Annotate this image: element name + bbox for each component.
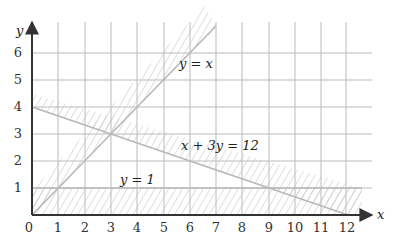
svg-text:1: 1 [14, 180, 22, 195]
svg-text:3: 3 [107, 220, 115, 235]
svg-text:3: 3 [14, 126, 22, 141]
svg-text:7: 7 [212, 220, 220, 235]
svg-text:5: 5 [160, 220, 168, 235]
svg-text:0: 0 [25, 220, 33, 235]
y-axis-label: y [15, 23, 24, 38]
svg-text:4: 4 [14, 99, 22, 114]
feasible-region-graph: x y 0 1 2 3 4 5 6 7 8 9 10 11 12 1 2 3 4… [0, 0, 395, 240]
svg-text:11: 11 [313, 220, 330, 235]
svg-text:8: 8 [238, 220, 246, 235]
label-x-plus-3y-eq-12: x + 3y = 12 [181, 138, 259, 153]
y-tick-labels: 1 2 3 4 5 6 [14, 45, 22, 195]
label-y-eq-x: y = x [178, 56, 214, 71]
svg-text:9: 9 [265, 220, 273, 235]
label-y-eq-1: y = 1 [119, 172, 155, 187]
x-tick-labels: 0 1 2 3 4 5 6 7 8 9 10 11 12 [25, 220, 355, 235]
svg-text:10: 10 [287, 220, 304, 235]
x-axis-label: x [377, 207, 385, 222]
svg-text:2: 2 [81, 220, 89, 235]
svg-text:1: 1 [54, 220, 62, 235]
svg-text:5: 5 [14, 72, 22, 87]
svg-text:4: 4 [133, 220, 141, 235]
svg-text:2: 2 [14, 153, 22, 168]
svg-text:6: 6 [186, 220, 194, 235]
svg-text:6: 6 [14, 45, 22, 60]
hatch-regions [32, 6, 362, 215]
svg-text:12: 12 [339, 220, 356, 235]
